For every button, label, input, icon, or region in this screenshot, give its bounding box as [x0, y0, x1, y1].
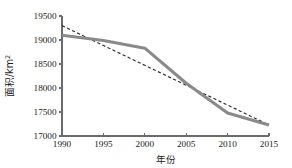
y-axis-title-text: 面积/km2 [4, 55, 15, 97]
y-tick-label: 18000 [34, 83, 57, 93]
y-axis-title-base: 面积/km [4, 59, 15, 97]
x-tick-label: 1990 [53, 139, 72, 149]
y-tick-label: 19500 [34, 11, 57, 21]
x-tick-label: 2000 [136, 139, 155, 149]
y-tick-label: 18500 [34, 59, 57, 69]
x-axis-title: 年份 [156, 154, 176, 165]
data-series-group [62, 26, 269, 125]
y-axis: 170001750018000185001900019500 [34, 11, 62, 141]
area-series-line [62, 35, 269, 125]
x-tick-label: 2015 [260, 139, 279, 149]
chart-container: 170001750018000185001900019500 199019952… [0, 0, 292, 168]
y-tick-label: 17500 [34, 107, 57, 117]
x-tick-label: 2005 [177, 139, 196, 149]
y-axis-title-superscript: 2 [4, 55, 12, 59]
x-axis: 199019952000200520102015 [53, 133, 279, 149]
line-chart: 170001750018000185001900019500 199019952… [0, 0, 292, 168]
y-axis-tick-labels: 170001750018000185001900019500 [34, 11, 57, 141]
x-tick-label: 2010 [218, 139, 237, 149]
x-tick-label: 1995 [94, 139, 113, 149]
y-tick-label: 19000 [34, 35, 57, 45]
x-axis-title-text: 年份 [156, 154, 176, 165]
x-axis-tick-labels: 199019952000200520102015 [53, 139, 279, 149]
y-axis-title: 面积/km2 [4, 55, 15, 97]
